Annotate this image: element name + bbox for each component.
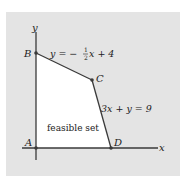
vertex-c-label: C [96,73,104,84]
constraint-bc-lhs: y = − [49,48,77,59]
vertex-a-label: A [24,137,32,148]
vertex-d-point [109,146,113,150]
vertex-c-point [90,78,94,82]
vertex-b-point [34,51,38,55]
constraint-label-bc: y = − 1 2 x + 4 [49,46,114,61]
feasible-region [36,53,111,148]
constraint-label-cd: 3x + y = 9 [101,103,152,114]
feasible-set-diagram: y x B C A D y = − 1 2 x + 4 3x + y = 9 f… [0,0,189,183]
vertex-d-label: D [113,137,122,148]
x-axis-label: x [159,142,165,153]
constraint-bc-frac-num: 1 [84,46,88,53]
constraint-bc-frac-den: 2 [84,54,88,61]
vertex-a-point [34,146,38,150]
y-axis-label: y [31,22,38,33]
constraint-bc-rhs: x + 4 [89,48,114,59]
feasible-set-label: feasible set [47,123,99,133]
vertex-b-label: B [23,48,31,59]
